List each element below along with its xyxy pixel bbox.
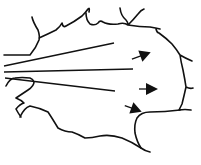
rays-group [4, 43, 133, 91]
arrow-top-icon [130, 47, 153, 65]
diagram-canvas [0, 0, 201, 165]
ray-middle [4, 69, 133, 72]
blob-outline-bottom-right [135, 110, 180, 152]
blob-outline-bottom [6, 78, 141, 149]
blob-outline-top [86, 8, 160, 29]
arrow-middle-icon [139, 83, 158, 95]
blob-outline-upper-left [4, 8, 89, 55]
ray-bottom [5, 78, 115, 91]
blob-outline-right [156, 29, 193, 110]
blob-diagram [0, 0, 201, 165]
